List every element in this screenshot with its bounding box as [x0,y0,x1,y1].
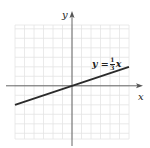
equation-lhs: y = [92,59,109,69]
fraction-one-third: 1 3 [110,57,115,71]
equation-rhs: x [116,59,122,69]
x-axis-label: x [138,92,144,102]
equation-label: y = 1 3 x [92,57,121,71]
fraction-denominator: 3 [110,65,114,71]
fraction-numerator: 1 [110,57,114,63]
y-axis-label: y [62,10,68,20]
coordinate-plot [0,0,150,148]
